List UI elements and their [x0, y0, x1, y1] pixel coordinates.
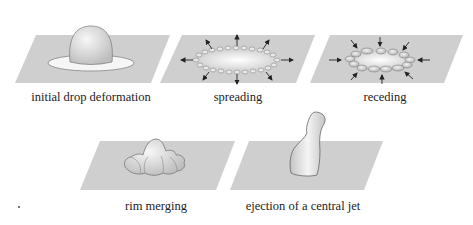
- panel-rim-merging: [80, 139, 235, 190]
- panel-spreading: [160, 35, 315, 84]
- stray-dot: [18, 206, 20, 208]
- caption-spreading: spreading: [214, 90, 263, 105]
- panel-initial-drop: [15, 26, 170, 83]
- caption-initial-drop-deformation: initial drop deformation: [31, 90, 150, 105]
- panel-receding: [310, 35, 463, 84]
- drop-impact-diagram: [0, 0, 473, 225]
- caption-receding: receding: [363, 90, 406, 105]
- drop-dome: [70, 26, 113, 65]
- caption-rim-merging: rim merging: [125, 199, 187, 214]
- caption-ejection-of-central-jet: ejection of a central jet: [246, 199, 361, 214]
- panel-central-jet: [230, 112, 383, 190]
